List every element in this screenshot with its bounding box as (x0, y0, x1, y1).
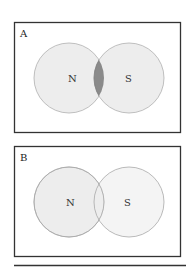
panel-b-label: B (20, 152, 27, 163)
set-s-label: S (124, 197, 131, 208)
panel-a: A N S (15, 23, 181, 133)
panel-b: B N S (15, 147, 181, 257)
set-n-label: N (66, 197, 75, 208)
panel-a-label: A (19, 28, 28, 39)
venn-diagrams: A N S B N S (0, 0, 192, 280)
set-s-label: S (125, 73, 132, 84)
set-n-label: N (68, 73, 77, 84)
